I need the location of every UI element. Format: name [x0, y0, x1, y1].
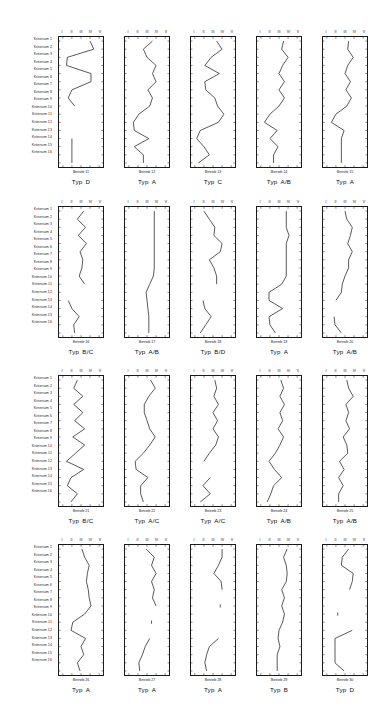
typ-value: A/B: [347, 348, 358, 355]
chart-caption-typ: TypA/B: [256, 177, 302, 187]
typ-word: Typ: [135, 348, 146, 355]
x-tick-label-II: II: [137, 369, 139, 375]
x-tick-label-II: II: [71, 200, 73, 206]
typ-value: A/C: [148, 517, 159, 524]
x-tick-label-III: III: [278, 538, 281, 544]
criteria-label-column-row-1: Kriterium 1Kriterium 2Kriterium 3Kriteri…: [4, 36, 52, 157]
x-tick-label-II: II: [269, 538, 271, 544]
x-tick-label-V: V: [99, 369, 101, 375]
plot-area: [124, 36, 170, 168]
plot-area: [124, 206, 170, 338]
chart-panel-betrieb-17: IIIIIIIVVBetrieb 17TypA/B: [124, 200, 170, 357]
plot-area: [322, 375, 368, 507]
plot-area: [190, 375, 236, 507]
x-tick-label-IV: IV: [155, 30, 158, 36]
x-tick-label-I: I: [128, 538, 129, 544]
series-plot: [59, 207, 103, 337]
criteria-label-column-row-4: Kriterium 1Kriterium 2Kriterium 3Kriteri…: [4, 544, 52, 665]
plot-area: [190, 544, 236, 676]
series-plot: [323, 376, 367, 506]
series-plot: [191, 376, 235, 506]
typ-word: Typ: [336, 686, 347, 693]
chart-panel-betrieb-16: IIIIIIIVVBetrieb 16TypB/C: [58, 200, 104, 357]
typ-value: A: [152, 178, 156, 185]
chart-caption-typ: TypA/C: [190, 516, 236, 526]
plot-area: [256, 544, 302, 676]
x-tick-label-III: III: [212, 369, 215, 375]
series-plot: [191, 207, 235, 337]
x-tick-label-I: I: [62, 200, 63, 206]
x-tick-label-IV: IV: [287, 30, 290, 36]
series-plot: [191, 545, 235, 675]
typ-word: Typ: [204, 686, 215, 693]
plot-area: [190, 206, 236, 338]
x-tick-label-I: I: [326, 30, 327, 36]
x-tick-label-I: I: [326, 369, 327, 375]
chart-caption-typ: TypB: [256, 685, 302, 695]
plot-area: [58, 375, 104, 507]
x-tick-label-V: V: [363, 538, 365, 544]
chart-caption-typ: TypA: [124, 177, 170, 187]
typ-word: Typ: [138, 178, 149, 185]
x-tick-label-IV: IV: [221, 200, 224, 206]
x-tick-label-V: V: [231, 200, 233, 206]
chart-panel-betrieb-30: IIIIIIIVVBetrieb 30TypD: [322, 538, 368, 695]
x-tick-label-III: III: [146, 30, 149, 36]
x-tick-label-IV: IV: [287, 369, 290, 375]
x-tick-label-V: V: [99, 538, 101, 544]
x-tick-label-I: I: [194, 369, 195, 375]
plot-area: [58, 206, 104, 338]
chart-caption-betrieb: Betrieb 16: [58, 338, 104, 345]
x-tick-label-III: III: [344, 538, 347, 544]
x-tick-label-IV: IV: [287, 200, 290, 206]
typ-value: A: [86, 686, 90, 693]
chart-caption-typ: TypD: [58, 177, 104, 187]
x-tick-label-V: V: [99, 30, 101, 36]
x-tick-label-II: II: [335, 369, 337, 375]
x-tick-label-III: III: [344, 369, 347, 375]
x-tick-label-I: I: [62, 538, 63, 544]
series-plot: [323, 207, 367, 337]
x-tick-label-I: I: [260, 200, 261, 206]
chart-caption-betrieb: Betrieb 12: [124, 168, 170, 175]
typ-value: A/B: [149, 348, 160, 355]
typ-value: A: [218, 686, 222, 693]
chart-caption-betrieb: Betrieb 26: [58, 676, 104, 683]
x-tick-label-I: I: [194, 538, 195, 544]
typ-word: Typ: [333, 348, 344, 355]
x-tick-label-I: I: [128, 200, 129, 206]
chart-caption-betrieb: Betrieb 20: [322, 338, 368, 345]
chart-caption-typ: TypA: [190, 685, 236, 695]
typ-word: Typ: [69, 517, 80, 524]
typ-value: A/B: [281, 517, 292, 524]
x-tick-label-III: III: [80, 200, 83, 206]
typ-word: Typ: [204, 178, 215, 185]
x-tick-label-III: III: [278, 200, 281, 206]
x-tick-label-III: III: [344, 200, 347, 206]
series-plot: [125, 545, 169, 675]
x-tick-label-IV: IV: [353, 538, 356, 544]
x-tick-label-I: I: [128, 369, 129, 375]
series-plot: [323, 37, 367, 167]
series-plot: [59, 545, 103, 675]
x-tick-label-IV: IV: [221, 538, 224, 544]
chart-caption-typ: TypB/C: [58, 516, 104, 526]
plot-area: [256, 36, 302, 168]
x-tick-label-V: V: [99, 200, 101, 206]
x-tick-label-V: V: [165, 200, 167, 206]
plot-area: [58, 36, 104, 168]
series-plot: [59, 376, 103, 506]
chart-panel-betrieb-18: IIIIIIIVVBetrieb 18TypB/D: [190, 200, 236, 357]
x-tick-label-IV: IV: [221, 369, 224, 375]
x-tick-label-I: I: [260, 538, 261, 544]
chart-caption-typ: TypA: [256, 347, 302, 357]
chart-caption-betrieb: Betrieb 17: [124, 338, 170, 345]
chart-caption-typ: TypA/B: [124, 347, 170, 357]
x-tick-label-I: I: [326, 538, 327, 544]
plot-area: [322, 206, 368, 338]
x-tick-label-II: II: [269, 30, 271, 36]
plot-area: [124, 375, 170, 507]
x-tick-label-V: V: [165, 369, 167, 375]
x-tick-label-III: III: [278, 369, 281, 375]
chart-caption-betrieb: Betrieb 15: [322, 168, 368, 175]
